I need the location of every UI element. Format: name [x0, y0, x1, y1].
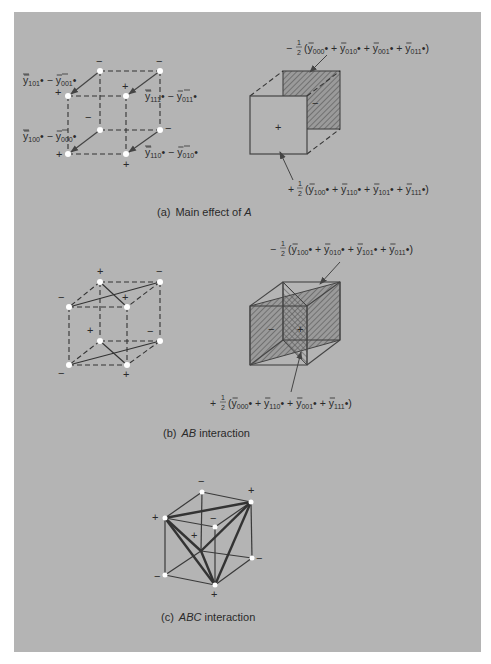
- sign: +: [87, 324, 93, 336]
- sign: −: [165, 122, 171, 134]
- svg-text:y110•−y010•: y110•−y010•: [145, 146, 198, 159]
- sign: +: [275, 121, 281, 133]
- pointer-arrow: [310, 55, 327, 72]
- panel-a-left-cube: [68, 71, 160, 154]
- vertex: [65, 151, 71, 157]
- sign: −: [256, 552, 262, 564]
- vertex: [97, 68, 103, 74]
- vertex: [97, 127, 103, 133]
- diagonal: [69, 341, 160, 365]
- sign: −: [85, 111, 91, 123]
- sign: −: [198, 475, 204, 487]
- sign: +: [55, 86, 61, 98]
- sign: +: [191, 529, 197, 541]
- sign: +: [248, 484, 254, 496]
- sign: −: [156, 55, 162, 67]
- caption-a: (a)Main effect of A: [157, 206, 252, 218]
- panel-b-bottom-formula: + 1 2 (y000• + y110• + y001• + y111•): [210, 394, 352, 411]
- panel-b-top-formula: − 1 2 (y100• + y010• + y101• + y011•): [270, 240, 413, 257]
- sign: +: [211, 588, 217, 600]
- panel-a-difference-labels: y101•−y001• y111•−y011• y100•−y000• y110…: [23, 74, 198, 159]
- panel-b-vertices: [66, 279, 163, 368]
- svg-text:2: 2: [221, 404, 225, 411]
- figure-canvas: − − + + − − + + y101•−y001• y111•−y011• …: [0, 0, 491, 664]
- svg-text:+: +: [210, 397, 216, 409]
- difference-label-111-011: y111•−y011•: [145, 90, 197, 103]
- svg-text:(y100• + y010• + y101• + y011•: (y100• + y010• + y101• + y011•): [288, 243, 413, 256]
- svg-text:1: 1: [298, 180, 302, 187]
- pointer-arrow: [320, 262, 340, 284]
- sign: −: [154, 570, 160, 582]
- svg-text:2: 2: [297, 49, 301, 56]
- svg-text:(y000• + y110• + y001• + y111•: (y000• + y110• + y001• + y111•): [228, 397, 352, 410]
- vertex: [157, 68, 163, 74]
- edge: [307, 129, 340, 154]
- difference-label-101-001: y101•−y001•: [23, 74, 77, 87]
- sign: −: [147, 325, 153, 337]
- panel-a-right-cube: + −: [250, 55, 340, 180]
- vertex: [123, 151, 129, 157]
- sign: −: [210, 512, 216, 524]
- sign: +: [56, 148, 62, 160]
- svg-text:y100•−y000•: y100•−y000•: [23, 130, 77, 143]
- sign: +: [123, 158, 129, 170]
- panel-a-bottom-formula: + 1 2 (y100• + y110• + y101• + y111•): [288, 180, 429, 197]
- pointer-arrow: [280, 152, 293, 180]
- svg-text:−: −: [270, 243, 276, 255]
- caption-c: (c)ABC interaction: [161, 611, 255, 623]
- svg-text:2: 2: [298, 190, 302, 197]
- caption-b: (b)AB interaction: [163, 427, 250, 439]
- difference-label-110-010: y110•−y010•: [145, 146, 198, 159]
- diagonal: [69, 282, 160, 307]
- svg-text:1: 1: [281, 240, 285, 247]
- panel-b-left-diagonals: [69, 282, 160, 365]
- panel-b-right-cube: − +: [250, 262, 340, 392]
- vertex: [65, 93, 71, 99]
- svg-text:−: −: [286, 42, 292, 54]
- sign: −: [312, 97, 318, 109]
- sign: +: [97, 265, 103, 277]
- difference-label-100-000: y100•−y000•: [23, 130, 77, 143]
- svg-text:2: 2: [281, 250, 285, 257]
- svg-text:y101•−y001•: y101•−y001•: [23, 74, 77, 87]
- edge: [250, 71, 283, 96]
- sign: +: [122, 291, 128, 303]
- panel-a-top-formula: − 1 2 (y000• + y010• + y001• + y011•): [286, 39, 429, 56]
- sign: +: [122, 80, 128, 92]
- sign: −: [96, 55, 102, 67]
- sign: +: [152, 511, 158, 523]
- sign: +: [297, 323, 303, 335]
- panel-a-vertices: [65, 68, 163, 157]
- panel-c-tetrahedron: [165, 502, 251, 585]
- sign: −: [58, 367, 64, 379]
- sign: −: [156, 265, 162, 277]
- vertex: [123, 93, 129, 99]
- svg-text:(y100• + y110• + y101• + y111•: (y100• + y110• + y101• + y111•): [305, 183, 429, 196]
- svg-text:1: 1: [221, 394, 225, 401]
- sign: +: [123, 368, 129, 380]
- svg-text:(y000• + y010• + y001• + y011•: (y000• + y010• + y001• + y011•): [304, 42, 429, 55]
- svg-text:y111•−y011•: y111•−y011•: [145, 90, 197, 103]
- sign: −: [268, 323, 274, 335]
- svg-text:1: 1: [297, 39, 301, 46]
- vertex: [157, 127, 163, 133]
- panel-c-signs: − + + − + − − +: [152, 475, 262, 600]
- pointer-arrow: [291, 352, 301, 392]
- sign: −: [58, 291, 64, 303]
- diagonal: [100, 341, 127, 365]
- svg-text:+: +: [288, 183, 294, 195]
